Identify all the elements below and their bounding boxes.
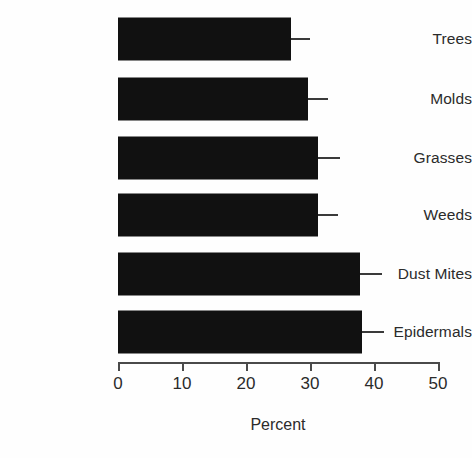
bar-chart-plot-area: Trees Molds Grasses Weeds Dust Mites Epi… [0, 0, 472, 458]
x-axis-title: Percent [0, 416, 472, 434]
bar-trees [118, 18, 291, 61]
x-axis-tick-40 [374, 362, 376, 371]
category-label-grasses: Grasses [367, 149, 472, 167]
x-axis-tick-label-20: 20 [226, 374, 266, 394]
x-axis-tick-10 [182, 362, 184, 371]
x-axis-tick-label-10: 10 [162, 374, 202, 394]
x-axis-title-text: Percent [250, 416, 305, 434]
bar-epidermals [118, 311, 362, 354]
x-axis-tick-label-0: 0 [98, 374, 138, 394]
x-axis-tick-30 [310, 362, 312, 371]
bar-grasses [118, 137, 318, 180]
x-axis-tick-20 [246, 362, 248, 371]
x-axis-tick-label-50: 50 [418, 374, 458, 394]
bar-weeds [118, 194, 318, 237]
bar-dust-mites [118, 253, 360, 296]
category-label-dust-mites: Dust Mites [367, 265, 472, 283]
x-axis-tick-label-30: 30 [290, 374, 330, 394]
chart-screenshot: Trees Molds Grasses Weeds Dust Mites Epi… [0, 0, 472, 458]
x-axis-line [118, 362, 439, 364]
x-axis-tick-label-40: 40 [354, 374, 394, 394]
category-label-trees: Trees [367, 30, 472, 48]
category-label-molds: Molds [367, 90, 472, 108]
bar-molds [118, 78, 308, 121]
category-label-weeds: Weeds [367, 206, 472, 224]
x-axis-tick-0 [118, 362, 120, 371]
x-axis-tick-50 [438, 362, 440, 371]
